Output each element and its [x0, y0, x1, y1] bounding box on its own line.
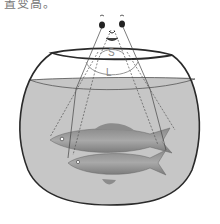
mouth: [106, 38, 118, 41]
label-l: L: [106, 67, 112, 78]
right-eye: [119, 21, 125, 28]
fishbowl-diagram: L S: [0, 0, 220, 224]
observer-face: [99, 15, 125, 41]
label-s: S: [108, 47, 115, 58]
nose: [109, 31, 115, 33]
angle-l-arc: [86, 62, 138, 75]
right-eyebrow: [120, 15, 124, 16]
left-eye: [99, 22, 105, 29]
left-eyebrow: [100, 15, 104, 16]
